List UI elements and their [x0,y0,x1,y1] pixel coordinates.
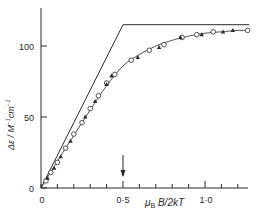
open-circle-point [63,146,68,151]
filled-triangle-point [136,55,140,59]
arrow-marker-icon [121,155,126,177]
x-tick-label-0: 0 [39,195,44,205]
open-circle-point [96,93,101,98]
mcd-saturation-chart: 0 50 100 0 0·5 1·0 μB B/2kT Δε / M−1cm−1 [0,0,261,217]
y-axis-label: Δε / M−1cm−1 [5,99,16,151]
open-circle-point [211,30,216,35]
y-tick-label-100: 100 [19,42,34,52]
y-axis-label-sup2: −1 [5,99,11,106]
open-circle-point [195,32,200,37]
y-axis-label-main: Δε / M [6,125,16,151]
open-circle-point [49,170,54,175]
open-circle-point [162,42,167,47]
x-tick-label-0.5: 0·5 [116,195,129,205]
open-circle-point [245,28,250,33]
x-tick-label-1.0: 1·0 [199,195,212,205]
filled-triangle-point [231,28,235,32]
fitted-curve [41,30,248,188]
filled-triangle-points [45,28,235,180]
axes [41,8,248,188]
open-circle-points [44,28,250,183]
filled-triangle-point [58,154,62,158]
y-tick-label-0: 0 [29,184,34,194]
y-axis-label-sup1: −1 [5,118,11,125]
x-axis-label-rest: B/2kT [155,197,185,208]
open-circle-point [88,106,93,111]
y-axis-label-cm: cm [6,106,16,119]
open-circle-point [147,48,152,53]
open-circle-point [129,58,134,63]
filled-triangle-point [68,139,72,143]
open-circle-point [80,120,85,125]
theoretical-limit-line [41,25,249,188]
filled-triangle-point [52,166,56,170]
open-circle-point [55,160,60,165]
open-circle-point [113,72,118,77]
x-axis-label: μB B/2kT [144,197,185,209]
open-circle-point [72,132,77,137]
y-tick-label-50: 50 [24,113,34,123]
